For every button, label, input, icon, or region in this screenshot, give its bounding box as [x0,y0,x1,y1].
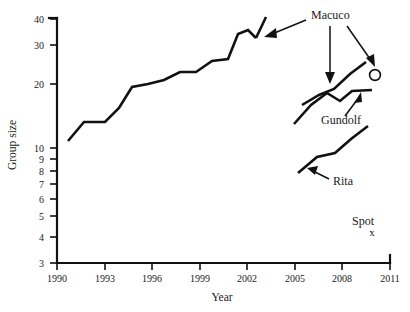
macuco-label: Macuco [311,8,350,22]
y-tick-label-4: 4 [39,232,44,243]
y-tick-group: 40 30 20 10 9 8 7 6 5 4 3 [34,14,57,269]
chart-figure: 40 30 20 10 9 8 7 6 5 4 3 1990 1993 1996… [0,0,410,312]
y-axis-title: Group size [6,120,19,170]
gundolf-label: Gundolf [321,113,361,127]
y-tick-label-6: 6 [39,194,44,205]
macuco-arrow-1-shaft [272,20,306,34]
macuco-second-segment [256,17,266,38]
rita-arrow-shaft [315,172,329,179]
chart-canvas: 40 30 20 10 9 8 7 6 5 4 3 1990 1993 1996… [0,0,410,312]
y-tick-label-40: 40 [34,14,44,25]
macuco-arrow-1-head [264,28,277,38]
gundolf-arrow-head [354,92,362,103]
macuco-arrow-2-head [325,72,335,84]
macuco-arrow-3-shaft [347,26,370,59]
macuco-open-circle-marker [370,70,381,81]
x-tick-label-2005: 2005 [285,273,305,284]
y-tick-label-10: 10 [34,143,44,154]
rita-line [298,126,368,173]
x-tick-label-2008: 2008 [332,273,352,284]
gundolf-annotation: Gundolf [321,92,362,127]
rita-arrow-head [307,166,318,175]
x-axis-title: Year [211,291,232,303]
macuco-annotation: Macuco [264,8,375,84]
x-tick-label-2011: 2011 [380,273,400,284]
x-tick-label-2002: 2002 [237,273,257,284]
y-tick-label-5: 5 [39,211,44,222]
rita-annotation: Rita [307,166,354,188]
x-tick-group: 1990 1993 1996 1999 2002 2005 2008 2011 [47,263,400,284]
y-tick-label-20: 20 [34,79,44,90]
x-tick-label-1999: 1999 [190,273,210,284]
macuco-main-curve [68,30,256,141]
x-tick-label-1993: 1993 [95,273,115,284]
axis-group [49,18,390,263]
y-tick-label-8: 8 [39,166,44,177]
x-tick-label-1996: 1996 [142,273,162,284]
y-tick-label-3: 3 [39,258,44,269]
rita-label: Rita [333,174,354,188]
y-tick-label-30: 30 [34,40,44,51]
y-tick-label-7: 7 [39,179,44,190]
y-tick-label-9: 9 [39,154,44,165]
x-tick-label-1990: 1990 [47,273,67,284]
spot-label: Spot [352,214,375,228]
